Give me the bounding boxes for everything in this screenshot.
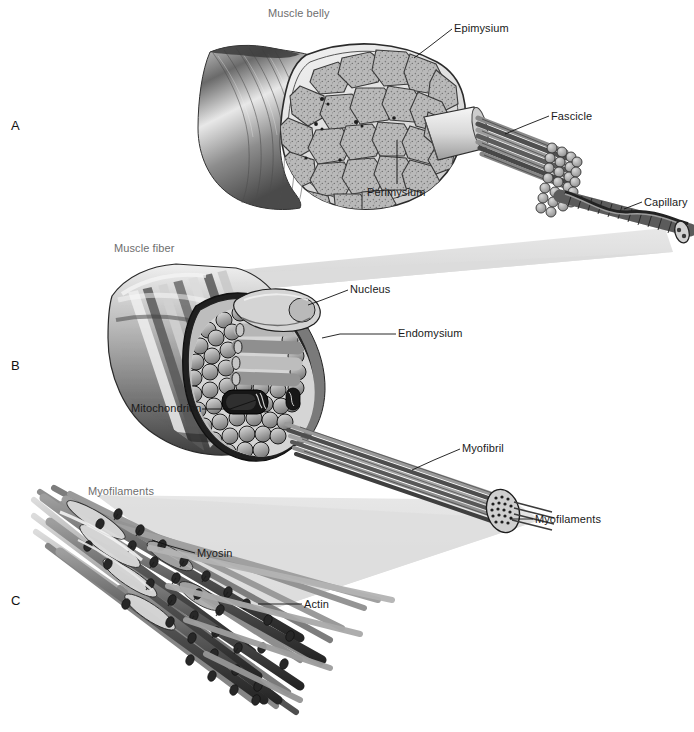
label-fascicle: Fascicle xyxy=(551,111,592,122)
leader-epimysium xyxy=(414,29,452,58)
leader-nucleus xyxy=(308,290,348,305)
label-myosin: Myosin xyxy=(197,548,232,559)
panel-letter-a: A xyxy=(11,119,20,132)
label-actin: Actin xyxy=(304,599,329,610)
leader-fascicle xyxy=(505,116,549,134)
label-capillary: Capillary xyxy=(644,197,688,208)
label-nucleus: Nucleus xyxy=(350,284,390,295)
panel-a-muscle-belly xyxy=(198,29,691,244)
panel-letter-b: B xyxy=(11,359,20,372)
label-myofilaments-left: Myofilaments xyxy=(88,486,154,497)
panel-letter-c: C xyxy=(11,594,20,607)
label-myofibril: Myofibril xyxy=(462,443,504,454)
muscle-organization-figure: A B C Muscle belly Epimysium Fascicle Ca… xyxy=(0,0,694,732)
label-myofilaments-right: Myofilaments xyxy=(535,514,601,525)
label-muscle-belly: Muscle belly xyxy=(268,8,330,19)
label-muscle-fiber: Muscle fiber xyxy=(114,243,175,254)
mitochondrion-body xyxy=(222,390,268,414)
panel-b-muscle-fiber xyxy=(108,263,554,537)
label-perimysium: Perimysium xyxy=(367,187,425,198)
label-endomysium: Endomysium xyxy=(398,328,463,339)
leader-capillary xyxy=(624,202,642,209)
leader-endomysium xyxy=(322,334,396,338)
label-mitochondrion: Mitochondrion xyxy=(131,403,201,414)
label-epimysium: Epimysium xyxy=(454,23,509,34)
leader-myofibril xyxy=(412,449,460,470)
mitochondrion-secondary xyxy=(286,388,300,410)
